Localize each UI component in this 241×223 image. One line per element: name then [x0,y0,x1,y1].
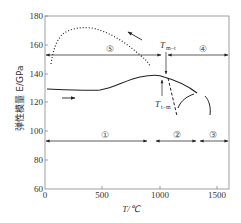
heating-curve [47,76,197,94]
y-tick-80: 80 [34,155,44,165]
y-tick-140: 140 [30,69,44,79]
y-tick-120: 120 [30,97,44,107]
y-tick-labels: 180 160 140 120 100 80 60 [30,11,44,194]
cooling-curve [51,28,150,66]
region-4-label: ④ [199,44,207,54]
region-3-label: ③ [209,130,217,140]
region-1-label: ① [101,130,109,140]
cooling-direction-arrow [128,32,142,40]
elastic-modulus-chart: 180 160 140 120 100 80 60 0 500 1000 150… [0,0,241,223]
x-axis-title: T/℃ [122,204,141,214]
region-5-label: ⑤ [106,44,114,54]
annotation-t-t-m: T t−m [155,80,171,110]
transition-dashed-line [168,78,177,116]
x-tick-500: 500 [95,190,109,200]
x-tick-labels: 0 500 1000 1500 [43,190,227,200]
y-axis-title: 弹性模量 E/GPa [14,65,25,130]
y-tick-100: 100 [30,126,44,136]
annotation-t-m-t: T m−t [160,40,176,74]
high-temp-tail-curve [205,96,210,115]
ann-mt-sub: m−t [166,45,176,51]
x-tick-1500: 1500 [208,190,227,200]
y-tick-160: 160 [30,40,44,50]
y-axis [45,16,48,160]
region-labels: ⑤ ④ ① ② ③ [101,44,217,140]
y-tick-180: 180 [30,11,44,21]
plot-frame [45,16,229,189]
x-tick-1000: 1000 [151,190,170,200]
region-2-label: ② [173,130,181,140]
x-tick-0: 0 [43,190,48,200]
x-axis [102,186,217,189]
ann-tm-sub: t−m [161,104,171,110]
low-branch-curve [178,94,194,108]
